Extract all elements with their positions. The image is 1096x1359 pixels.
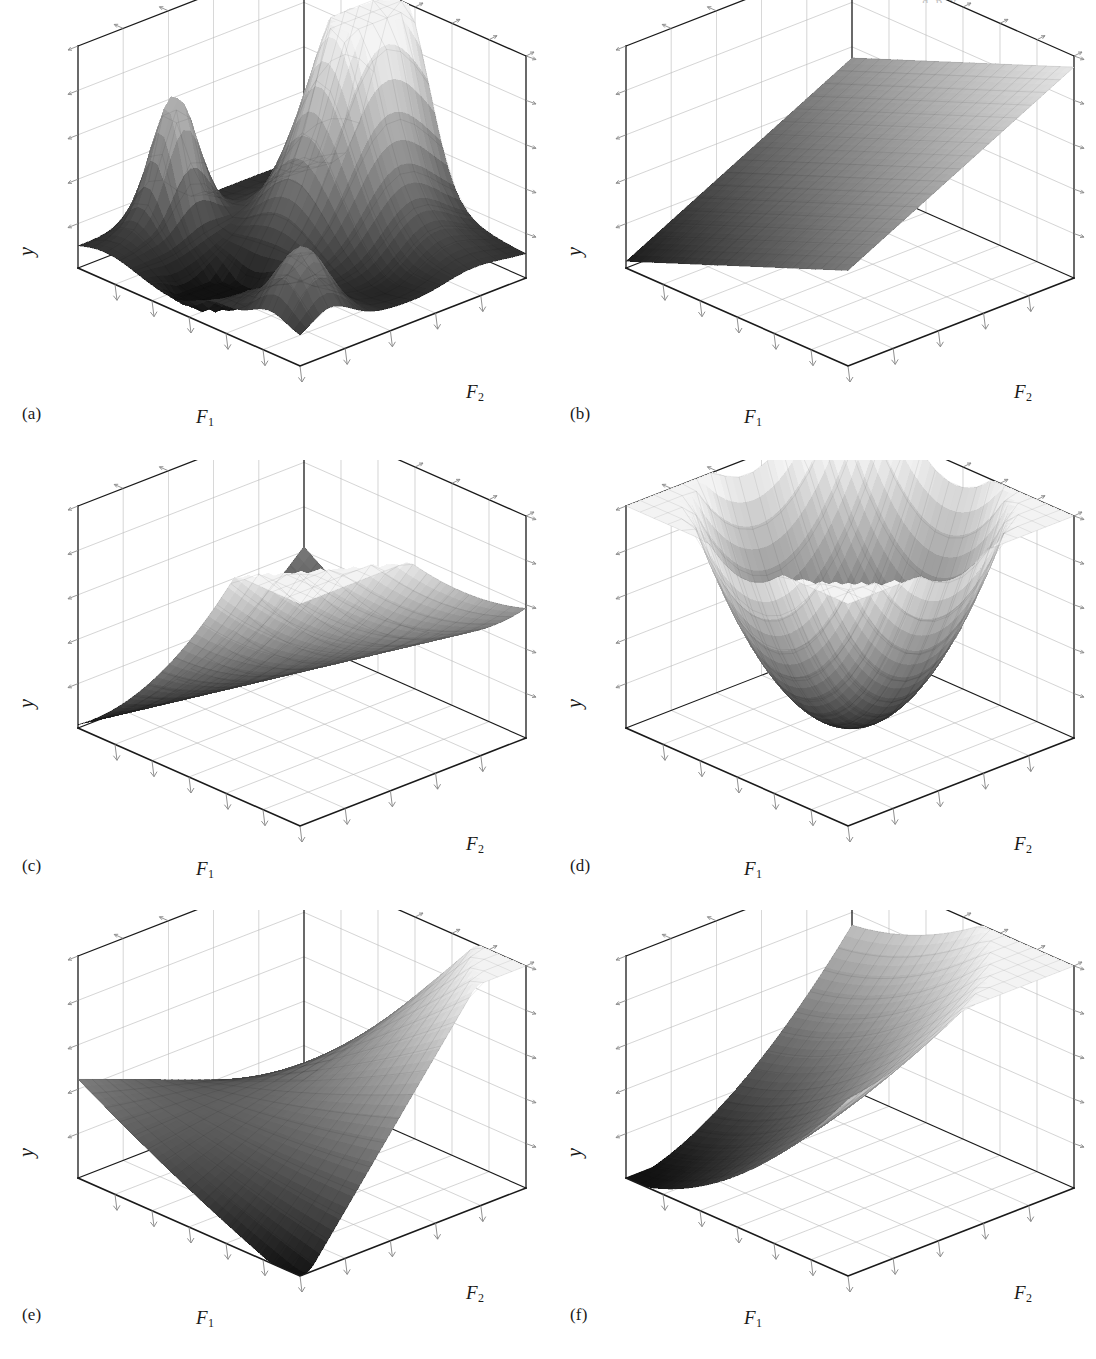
surface-mesh [78,546,526,724]
axis-label-y-b: y [563,247,586,256]
axis-frame-front [626,728,1074,826]
panel-b: (b) F1 F2 y [548,0,1096,460]
panel-label-f: (f) [570,1305,588,1325]
axis-label-y-a: y [15,247,38,256]
axis-label-z-f: F2 [1014,1282,1032,1306]
surface-mesh [626,460,1074,729]
axis-label-x-e: F1 [196,1307,214,1331]
axis-label-z-b: F2 [1014,381,1032,405]
axis-label-y-c: y [15,699,38,708]
axis-label-x-a: F1 [196,406,214,430]
surface-mesh [78,946,526,1276]
panel-c: (c) F1 F2 y [0,460,548,910]
floor-tick-marks [661,744,1033,842]
axis-frame-front [78,728,526,826]
axis-frame-front [626,268,1074,366]
axis-label-x-c: F1 [196,858,214,882]
panel-label-c: (c) [22,856,41,876]
axis-label-x-f: F1 [744,1307,762,1331]
surface-mesh [626,925,1074,1189]
axis-frame-front [626,1178,1074,1276]
panel-label-d: (d) [570,856,590,876]
axis-label-x-b: F1 [744,406,762,430]
panel-d: (d) F1 F2 y [548,460,1096,910]
axis-label-y-f: y [563,1148,586,1157]
panel-e: (e) F1 F2 y [0,910,548,1359]
panel-a: (a) F1 F2 y [0,0,548,460]
floor-tick-marks [661,284,1033,382]
axis-label-z-d: F2 [1014,833,1032,857]
axis-label-z-e: F2 [466,1282,484,1306]
axis-label-z-c: F2 [466,833,484,857]
axis-label-z-a: F2 [466,381,484,405]
panel-label-e: (e) [22,1305,41,1325]
floor-tick-marks [113,744,485,842]
axis-label-y-d: y [563,699,586,708]
panel-label-b: (b) [570,404,590,424]
axis-label-x-d: F1 [744,858,762,882]
axis-label-y-e: y [15,1148,38,1157]
floor-tick-marks [661,1194,1033,1292]
panel-f: (f) F1 F2 y [548,910,1096,1359]
figure-panel-grid: (a) F1 F2 y (b) F1 F2 y (c) F1 F2 y (d) … [0,0,1096,1359]
panel-label-a: (a) [22,404,41,424]
